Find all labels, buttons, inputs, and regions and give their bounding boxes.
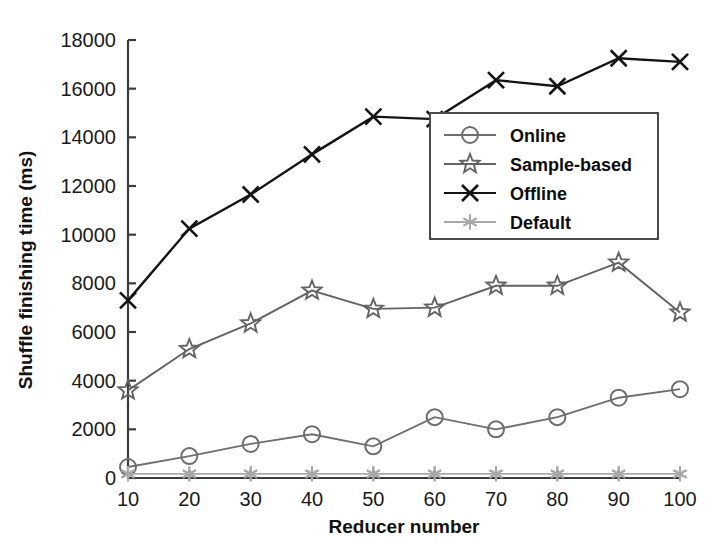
x-tick-label: 40	[301, 488, 323, 510]
x-tick-label: 80	[546, 488, 568, 510]
y-tick-label: 16000	[60, 78, 116, 100]
x-tick-label: 10	[117, 488, 139, 510]
legend-label: Offline	[510, 184, 567, 204]
y-tick-label: 14000	[60, 126, 116, 148]
legend-label: Sample-based	[510, 155, 632, 175]
chart-legend[interactable]: OnlineSample-basedOfflineDefault	[430, 113, 658, 239]
x-tick-label: 100	[663, 488, 696, 510]
legend-label: Online	[510, 126, 566, 146]
y-tick-label: 6000	[72, 321, 117, 343]
y-tick-label: 10000	[60, 224, 116, 246]
y-tick-label: 0	[105, 467, 116, 489]
x-tick-label: 90	[608, 488, 630, 510]
x-tick-label: 30	[240, 488, 262, 510]
x-tick-label: 60	[424, 488, 446, 510]
x-axis-title: Reducer number	[329, 516, 481, 537]
y-tick-label: 2000	[72, 418, 117, 440]
y-tick-label: 12000	[60, 175, 116, 197]
chart-figure: 0200040006000800010000120001400016000180…	[0, 0, 707, 554]
line-chart-canvas: 0200040006000800010000120001400016000180…	[0, 0, 707, 554]
y-tick-label: 18000	[60, 29, 116, 51]
x-tick-label: 50	[362, 488, 384, 510]
x-tick-label: 20	[178, 488, 200, 510]
y-tick-label: 8000	[72, 272, 117, 294]
legend-label: Default	[510, 213, 571, 233]
y-tick-label: 4000	[72, 370, 117, 392]
x-tick-label: 70	[485, 488, 507, 510]
y-axis-title: Shuffle finishing time (ms)	[15, 151, 36, 390]
